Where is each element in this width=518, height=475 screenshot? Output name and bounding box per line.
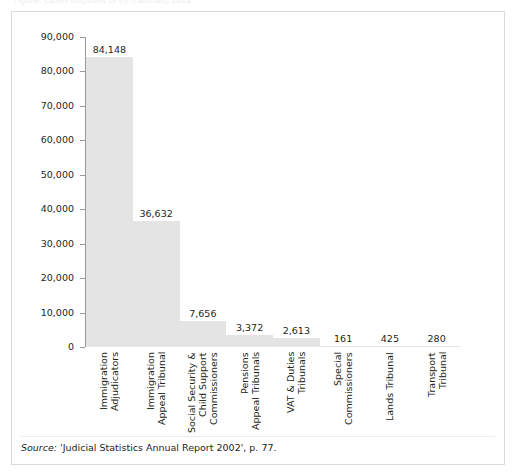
- y-tick-mark: [80, 106, 85, 107]
- y-tick-label: 50,000: [41, 170, 74, 180]
- bar-chart: 010,00020,00030,00040,00050,00060,00070,…: [12, 12, 506, 428]
- bar: [226, 335, 273, 347]
- x-category-label-line: Special: [332, 352, 343, 436]
- bar-value-label: 84,148: [80, 44, 139, 55]
- y-tick-label: 40,000: [41, 204, 74, 214]
- y-tick-mark: [80, 37, 85, 38]
- bar-value-label: 7,656: [174, 308, 233, 319]
- bar: [413, 346, 460, 347]
- x-category-label-line: Immigration: [98, 352, 109, 436]
- bar-series: 84,14836,6327,6563,3722,613161425280: [86, 37, 460, 347]
- x-category-label-line: Tribunal: [437, 352, 448, 436]
- x-category-label-line: Lands Tribunal: [384, 352, 395, 436]
- y-tick-mark: [80, 140, 85, 141]
- x-category-label-line: Social Security &: [186, 352, 197, 436]
- x-category-label: ImmigrationAdjudicators: [98, 352, 120, 436]
- bar: [133, 221, 180, 347]
- y-tick-mark: [80, 347, 85, 348]
- bar: [273, 338, 320, 347]
- x-category-label-line: VAT & Duties: [285, 352, 296, 436]
- x-category-label-line: Tribunals: [296, 352, 307, 436]
- y-tick-label: 60,000: [41, 135, 74, 145]
- x-category-label-line: Immigration: [145, 352, 156, 436]
- bar: [320, 346, 367, 347]
- x-category-label-line: Appeal Tribunals: [250, 352, 261, 436]
- source-divider: [21, 436, 495, 437]
- x-category-label: SpecialCommissioners: [332, 352, 354, 436]
- x-category-label-line: Transport: [426, 352, 437, 436]
- x-category-label-line: Commissioners: [208, 352, 219, 436]
- y-tick-mark: [80, 175, 85, 176]
- y-tick-label: 90,000: [41, 32, 74, 42]
- x-category-label: PensionsAppeal Tribunals: [239, 352, 261, 436]
- y-tick-mark: [80, 209, 85, 210]
- x-category-label: ImmigrationAppeal Tribunal: [145, 352, 167, 436]
- x-category-label: Social Security &Child SupportCommission…: [186, 352, 219, 436]
- y-tick-label: 30,000: [41, 239, 74, 249]
- y-tick-mark: [80, 244, 85, 245]
- y-tick-label: 80,000: [41, 66, 74, 76]
- source-note: Source: 'Judicial Statistics Annual Repo…: [21, 442, 277, 453]
- bar: [86, 57, 133, 347]
- clipped-figure-caption: Figure: Cases disposed of by tribunals, …: [14, 0, 344, 5]
- source-label: Source:: [21, 442, 57, 453]
- x-category-label-line: Adjudicators: [109, 352, 120, 436]
- y-tick-mark: [80, 278, 85, 279]
- x-category-label-line: Commissioners: [343, 352, 354, 436]
- y-tick-label: 20,000: [41, 273, 74, 283]
- x-category-label: Lands Tribunal: [384, 352, 395, 436]
- source-citation: 'Judicial Statistics Annual Report 2002'…: [57, 442, 276, 453]
- x-category-label-line: Appeal Tribunal: [156, 352, 167, 436]
- y-tick-label: 0: [68, 342, 74, 352]
- y-tick-mark: [80, 313, 85, 314]
- y-tick-label: 10,000: [41, 308, 74, 318]
- x-category-label-line: Pensions: [239, 352, 250, 436]
- x-category-label: VAT & DutiesTribunals: [285, 352, 307, 436]
- x-category-label: TransportTribunal: [426, 352, 448, 436]
- x-category-label-line: Child Support: [197, 352, 208, 436]
- y-tick-label: 70,000: [41, 101, 74, 111]
- bar-value-label: 36,632: [127, 208, 186, 219]
- bar: [180, 321, 227, 347]
- bar: [367, 346, 414, 347]
- figure-container: 010,00020,00030,00040,00050,00060,00070,…: [11, 11, 505, 465]
- bar-value-label: 280: [407, 333, 466, 344]
- y-tick-mark: [80, 71, 85, 72]
